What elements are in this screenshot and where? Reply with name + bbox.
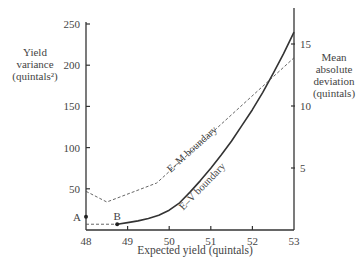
y-tick-label: 200 xyxy=(64,59,81,71)
y-axis-label-line: Yield xyxy=(4,46,66,58)
y2-axis-label-line: absolute xyxy=(306,63,360,75)
y-axis-label-line: (quintals²) xyxy=(4,70,66,82)
y2-axis-label-line: (quintals) xyxy=(306,87,360,99)
point-b-label: B xyxy=(114,210,121,222)
ticks: 4849505152535010015020025051015 xyxy=(64,18,312,247)
e-m-boundarycurve xyxy=(86,58,294,202)
y2-axis-label-line: deviation xyxy=(306,75,360,87)
curve-annotations: E–M boundaryE–V boundary xyxy=(165,123,228,212)
x-tick-label: 53 xyxy=(289,235,301,247)
x-axis-label: Expected yield (quintals) xyxy=(120,244,270,256)
chart: 4849505152535010015020025051015 AB E–M b… xyxy=(0,0,360,269)
y-tick-label: 50 xyxy=(69,183,81,195)
y2-tick-label: 10 xyxy=(300,100,312,112)
y-tick-label: 250 xyxy=(64,18,81,30)
y-axis-label: Yield variance (quintals²) xyxy=(4,46,66,82)
curve-label: E–V boundary xyxy=(177,160,228,212)
point-a-label: A xyxy=(73,211,81,223)
y-axis-label-line: variance xyxy=(4,58,66,70)
point-b-marker xyxy=(115,222,119,226)
point-a-marker xyxy=(84,215,88,219)
y2-tick-label: 5 xyxy=(300,162,306,174)
y2-axis-label-line: Mean xyxy=(306,51,360,63)
y-tick-label: 150 xyxy=(64,100,81,112)
x-tick-label: 48 xyxy=(81,235,93,247)
y2-tick-label: 15 xyxy=(300,38,312,50)
y2-axis-label: Mean absolute deviation (quintals) xyxy=(306,51,360,99)
y-tick-label: 100 xyxy=(64,142,81,154)
